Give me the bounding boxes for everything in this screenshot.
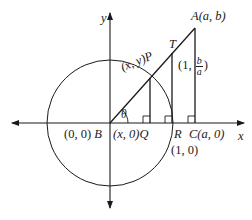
right-angle-Q [143,116,150,123]
point-Q-coords: (x, 0) [113,127,139,141]
right-angle-R [165,116,172,123]
point-Q-name: Q [139,127,148,141]
point-C-coords: (a, 0) [197,127,224,141]
y-axis-label: y [101,12,107,25]
point-R-coords: (1, 0) [171,144,198,157]
point-T-coords-prefix: (1, [178,58,195,72]
point-B-label: (0, 0) B [64,128,102,141]
point-T-fraction: ba [196,56,203,77]
point-R-name: R [174,128,182,141]
point-T-name: T [169,38,176,51]
angle-theta-label: θ [121,109,127,121]
point-A-coords: (a, b) [199,9,226,23]
point-A-label: A(a, b) [191,10,226,23]
fraction-denominator: a [196,67,203,77]
x-axis-label: x [238,130,244,143]
right-angle-C [188,116,195,123]
point-C-label: C(a, 0) [189,128,224,141]
point-B-name: B [94,127,102,141]
point-T-coords-suffix: ) [204,58,208,72]
point-A-name: A [191,9,199,23]
point-Q-label: (x, 0)Q [113,128,148,141]
point-T-coords: (1, ba) [178,56,208,77]
point-B-coords: (0, 0) [64,127,91,141]
unit-circle-diagram: y x θ A(a, b) T (1, ba) (x, y)P (0, 0) B… [0,0,252,220]
